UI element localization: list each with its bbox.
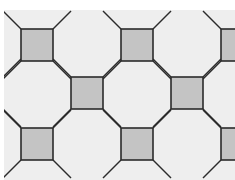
tiling-svg-canvas — [0, 0, 235, 180]
square-tile — [21, 128, 53, 160]
square-tile — [121, 128, 153, 160]
square-tile — [71, 77, 103, 109]
square-tile — [21, 29, 53, 61]
square-tile — [121, 29, 153, 61]
square-tile — [171, 77, 203, 109]
square-tile — [221, 29, 235, 61]
square-tile — [221, 128, 235, 160]
tiling-figure: Truncated square tiling pattern Geometri… — [0, 0, 235, 180]
left-margin-mask — [0, 0, 4, 180]
top-margin-mask — [0, 0, 235, 10]
